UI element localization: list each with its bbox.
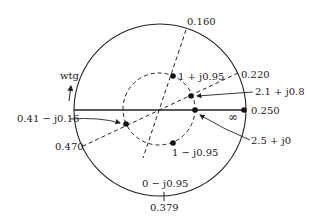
swr-circle [123, 73, 195, 145]
wavelength-label-top: 0.160 [187, 16, 216, 27]
wtg-arrow-icon [69, 86, 71, 101]
label-0-41-minus-j016: 0.41 − j0.16 [17, 113, 79, 124]
wavelength-label-bottom: 0.379 [150, 202, 179, 213]
wavelength-label-right: 0.250 [251, 105, 280, 116]
radial-line-0160 [143, 30, 186, 158]
wavelength-label-upper-right: 0.220 [241, 69, 270, 80]
point-1-plus-j095 [170, 73, 176, 79]
label-2-1-plus-j08: 2.1 + j0.8 [255, 86, 305, 97]
direction-label: wtg [60, 70, 80, 81]
label-1-plus-j095: 1 + j0.95 [178, 71, 224, 82]
point-2-5-plus-j0 [192, 107, 198, 113]
arrow-2-5-plus-j0 [200, 115, 250, 140]
point-2-1-plus-j08 [188, 93, 194, 99]
smith-chart: wtg 0.160 0.220 0.250 0.470 0.379 1 + j0… [0, 0, 310, 222]
label-1-minus-j095: 1 − j0.95 [172, 147, 218, 158]
label-0-minus-j095: 0 − j0.95 [142, 178, 188, 189]
point-infinity [241, 107, 247, 113]
label-2-5-plus-j0: 2.5 + j0 [251, 135, 291, 146]
wavelength-label-lower-left: 0.470 [55, 141, 84, 152]
infinity-symbol: ∞ [228, 110, 238, 124]
point-1-minus-j095 [170, 140, 176, 146]
point-0-41-minus-j016 [123, 121, 129, 127]
